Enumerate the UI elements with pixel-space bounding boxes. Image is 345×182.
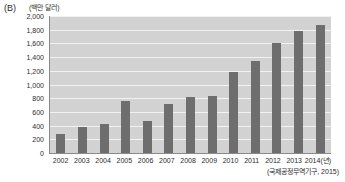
y-axis-tick-label: 1,800	[26, 26, 44, 33]
bar-slot	[266, 16, 288, 153]
panel-label: (B)	[4, 3, 16, 13]
bar	[143, 121, 152, 153]
x-axis-tick-label: 2009	[199, 157, 220, 165]
bar-slot	[244, 16, 266, 153]
chart-figure: (B) (백만 달러) 2,0001,8001,6001,4001,2001,0…	[0, 0, 345, 182]
y-axis-tick-label: 1,000	[26, 81, 44, 88]
source-note: (국제공정무역기구, 2015)	[267, 168, 339, 176]
y-axis-tick-labels: 2,0001,8001,6001,4001,2001,0008006004002…	[0, 16, 47, 153]
bar	[272, 43, 281, 153]
bar-slot	[72, 16, 94, 153]
x-axis-tick-label: 2014(년)	[305, 157, 331, 165]
bar-slot	[309, 16, 331, 153]
x-axis-tick-label: 2005	[114, 157, 135, 165]
y-axis-tick-label: 1,400	[26, 54, 44, 61]
plot-area	[50, 16, 331, 153]
bar	[294, 31, 303, 153]
bar	[100, 124, 109, 153]
bar-slot	[180, 16, 202, 153]
x-axis-tick-label: 2002	[50, 157, 71, 165]
bar-slot	[223, 16, 245, 153]
bar	[121, 101, 130, 153]
y-axis-unit-label: (백만 달러)	[29, 2, 60, 12]
x-axis-line	[49, 153, 331, 154]
bar-slot	[93, 16, 115, 153]
y-axis-line	[49, 16, 50, 154]
x-axis-tick-label: 2006	[135, 157, 156, 165]
x-axis-tick-labels: 2002200320042005200620072008200920102011…	[50, 157, 331, 165]
bar	[316, 25, 325, 153]
x-axis-tick-label: 2010	[220, 157, 241, 165]
y-axis-tick-label: 400	[32, 122, 44, 129]
bar	[208, 96, 217, 153]
bar	[78, 127, 87, 153]
x-axis-tick-label: 2012	[262, 157, 283, 165]
bar-slot	[136, 16, 158, 153]
x-axis-tick-label: 2004	[92, 157, 113, 165]
x-axis-tick-label: 2013	[284, 157, 305, 165]
bar-slot	[158, 16, 180, 153]
bar	[251, 61, 260, 153]
y-axis-tick-label: 1,600	[26, 40, 44, 47]
bar-series	[50, 16, 331, 153]
bar	[229, 72, 238, 154]
y-axis-tick-label: 800	[32, 95, 44, 102]
bar-slot	[50, 16, 72, 153]
x-axis-tick-label: 2008	[177, 157, 198, 165]
x-axis-tick-label: 2011	[241, 157, 262, 165]
bar-slot	[115, 16, 137, 153]
y-axis-tick-label: 1,200	[26, 67, 44, 74]
x-axis-tick-label: 2003	[71, 157, 92, 165]
x-axis-tick-label: 2007	[156, 157, 177, 165]
bar	[56, 134, 65, 153]
bar	[186, 97, 195, 154]
bar-slot	[288, 16, 310, 153]
y-axis-tick-label: 200	[32, 136, 44, 143]
y-axis-tick-label: 0	[40, 150, 44, 157]
bar-slot	[201, 16, 223, 153]
bar	[164, 104, 173, 153]
y-axis-tick-label: 2,000	[26, 13, 44, 20]
y-axis-tick-label: 600	[32, 108, 44, 115]
